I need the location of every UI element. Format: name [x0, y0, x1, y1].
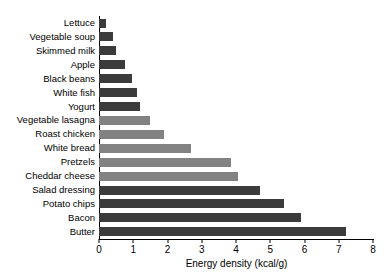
bar — [99, 116, 150, 125]
bar-row: Black beans — [99, 74, 373, 84]
bar — [99, 199, 284, 208]
category-label: Vegetable soup — [29, 32, 95, 42]
x-axis-label: Energy density (kcal/g) — [99, 258, 374, 269]
x-tick-label: 8 — [370, 244, 376, 256]
bar — [99, 32, 113, 41]
bar — [99, 46, 116, 55]
category-label: White bread — [44, 143, 95, 153]
x-tick-mark — [236, 239, 237, 243]
energy-density-bar-chart: LettuceVegetable soupSkimmed milkAppleBl… — [0, 0, 388, 276]
x-tick-mark — [338, 239, 339, 243]
plot-area: LettuceVegetable soupSkimmed milkAppleBl… — [99, 16, 373, 238]
bar-row: Yogurt — [99, 102, 373, 112]
category-label: Roast chicken — [35, 129, 95, 139]
x-tick-label: 1 — [130, 244, 136, 256]
x-tick-mark — [133, 239, 134, 243]
bar — [99, 186, 260, 195]
category-label: Black beans — [43, 74, 95, 84]
bar — [99, 158, 231, 167]
bar-row: Apple — [99, 60, 373, 70]
category-label: Butter — [70, 227, 95, 237]
bar — [99, 213, 301, 222]
x-tick-label: 3 — [199, 244, 205, 256]
bar-row: Cheddar cheese — [99, 171, 373, 181]
bar-row: Butter — [99, 227, 373, 237]
x-tick-mark — [99, 239, 100, 243]
bar — [99, 227, 346, 236]
category-label: Vegetable lasagna — [17, 115, 95, 125]
x-tick-label: 6 — [302, 244, 308, 256]
category-label: Potato chips — [43, 199, 95, 209]
category-label: White fish — [53, 88, 95, 98]
category-label: Pretzels — [61, 157, 95, 167]
bar — [99, 60, 125, 69]
bar-row: White fish — [99, 88, 373, 98]
bar-row: Vegetable lasagna — [99, 115, 373, 125]
bar-row: Skimmed milk — [99, 46, 373, 56]
bar — [99, 19, 106, 28]
bar — [99, 88, 137, 97]
bar — [99, 172, 238, 181]
x-tick-mark — [270, 239, 271, 243]
bar-row: Roast chicken — [99, 129, 373, 139]
bar — [99, 102, 140, 111]
x-tick-mark — [201, 239, 202, 243]
category-label: Skimmed milk — [36, 46, 95, 56]
bar-row: Bacon — [99, 213, 373, 223]
category-label: Yogurt — [68, 102, 95, 112]
x-tick-label: 5 — [267, 244, 273, 256]
x-tick-label: 2 — [165, 244, 171, 256]
x-tick-mark — [373, 239, 374, 243]
x-tick-mark — [167, 239, 168, 243]
bar — [99, 74, 132, 83]
x-tick-mark — [304, 239, 305, 243]
bar-row: Vegetable soup — [99, 32, 373, 42]
bar — [99, 130, 164, 139]
x-tick-label: 7 — [336, 244, 342, 256]
category-label: Apple — [71, 60, 95, 70]
bar — [99, 144, 191, 153]
x-tick-label: 4 — [233, 244, 239, 256]
bar-row: Salad dressing — [99, 185, 373, 195]
x-tick-label: 0 — [96, 244, 102, 256]
bar-row: Pretzels — [99, 157, 373, 167]
bar-rows: LettuceVegetable soupSkimmed milkAppleBl… — [99, 16, 373, 238]
bar-row: Potato chips — [99, 199, 373, 209]
category-label: Cheddar cheese — [25, 171, 95, 181]
category-label: Bacon — [68, 213, 95, 223]
bar-row: White bread — [99, 143, 373, 153]
x-axis-ticks: 012345678 — [99, 239, 374, 259]
bar-row: Lettuce — [99, 18, 373, 28]
category-label: Lettuce — [64, 18, 95, 28]
category-label: Salad dressing — [32, 185, 95, 195]
